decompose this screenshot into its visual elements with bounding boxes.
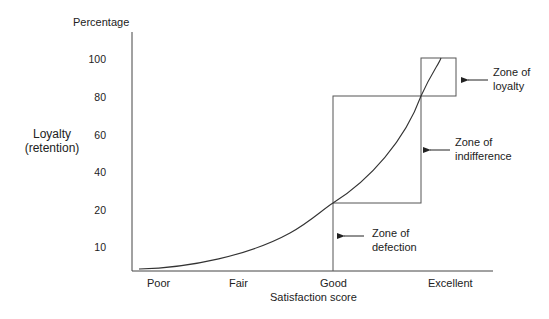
y-tick-60: 60 [76,129,106,141]
y-tick-80: 80 [76,91,106,103]
y-axis-label-2: (retention) [18,142,86,155]
y-unit-label: Percentage [73,16,129,29]
y-tick-20: 20 [76,204,106,216]
y-tick-40: 40 [76,166,106,178]
zone-defection-label-1: Zone of [372,227,409,240]
x-tick-poor: Poor [147,277,170,290]
zone-indifference-label-1: Zone of [455,136,492,149]
zone-loyalty-label-1: Zone of [493,66,530,79]
y-axis-label-1: Loyalty [22,128,82,141]
zone-defection-label-2: defection [372,241,417,254]
x-tick-excellent: Excellent [428,277,473,290]
x-tick-good: Good [320,277,347,290]
zone-loyalty-label-2: loyalty [493,80,524,93]
zone-indifference-label-2: indifference [455,150,512,163]
y-tick-10: 10 [76,241,106,253]
y-tick-100: 100 [76,53,106,65]
indifference-zone-box [333,96,421,203]
x-tick-fair: Fair [229,277,248,290]
x-axis-label: Satisfaction score [270,291,357,304]
